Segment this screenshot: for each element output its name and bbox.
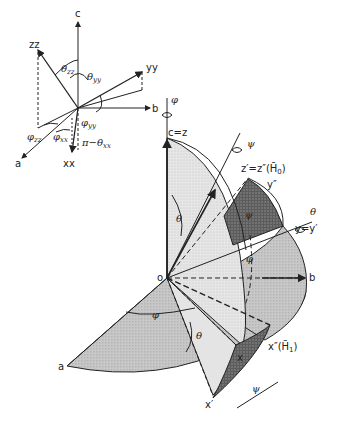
angle-psi-patch: ψ (245, 209, 253, 220)
inset-label-xx: xx (63, 158, 75, 169)
inset-pi-minus-theta-xx: π−θxx (81, 137, 111, 150)
inset-vector-zz (38, 50, 78, 108)
label-x-double-prime: x″(H̄1) (268, 340, 298, 354)
inset-label-a: a (15, 158, 21, 169)
angle-theta-top: θ (176, 213, 182, 224)
inset-phi-zz: φzz (27, 131, 42, 144)
euler-angle-diagram: c b a zz yy xx θzz θyy φyy φzz φxx π−θxx (0, 0, 349, 425)
inset-label-zz: zz (29, 39, 40, 50)
inset-vector-xx (72, 108, 78, 152)
label-a: a (58, 361, 64, 372)
angle-psi-bottom: ψ (252, 383, 260, 394)
inset-label-b: b (152, 103, 158, 114)
angle-phi-bottom: φ (152, 309, 159, 320)
label-y-eq-y-prime: y=y′ (295, 223, 318, 234)
label-z-prime: z′=z″(H̄0) (241, 162, 286, 176)
rotation-phi-label: φ (171, 94, 178, 105)
label-x: x (237, 352, 243, 363)
label-y-double-prime: y″ (267, 179, 277, 190)
inset-label-yy: yy (146, 62, 158, 73)
label-origin: o (157, 272, 163, 283)
inset-label-c: c (75, 8, 81, 19)
label-b: b (309, 272, 315, 283)
label-c-z: c=z (168, 127, 187, 138)
rotation-theta-label: θ (310, 206, 316, 217)
inset-phi-xx: φxx (53, 131, 68, 144)
angle-phi-right: φ (246, 253, 253, 264)
inset-theta-yy: θyy (87, 71, 102, 84)
inset-theta-zz: θzz (61, 63, 75, 76)
inset-phi-yy: φyy (81, 117, 97, 130)
rotation-psi-label: ψ (247, 138, 255, 149)
angle-theta-bottom: θ (196, 330, 202, 341)
label-x-prime: x′ (205, 399, 214, 410)
